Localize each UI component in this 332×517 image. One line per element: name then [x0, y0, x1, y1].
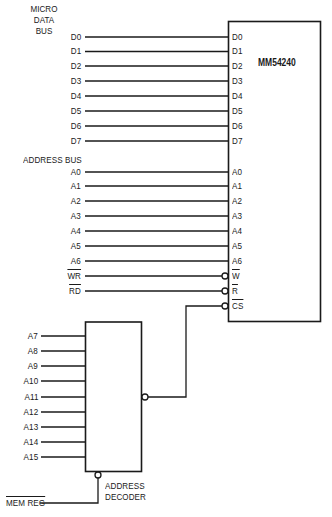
bus-label-a5: A5	[71, 241, 81, 251]
bus-label-d2: D2	[70, 61, 81, 71]
chip-pin-d7: D7	[232, 136, 243, 146]
bus-label-d0: D0	[70, 32, 81, 42]
chip-pin-a2: A2	[232, 196, 242, 206]
decoder-input-a8: A8	[28, 346, 38, 356]
schematic-wiring	[0, 0, 332, 517]
bus-label-d5: D5	[70, 106, 81, 116]
chip-pin-d1: D1	[232, 46, 243, 56]
chip-pin-a4: A4	[232, 226, 242, 236]
bus-label-d6: D6	[70, 121, 81, 131]
chip-name: MM54240	[258, 57, 296, 68]
decoder-label-line1: ADDRESS	[105, 481, 145, 491]
micro-data-bus-heading: MICRO DATA BUS	[27, 3, 61, 36]
heading-line: DATA	[27, 14, 61, 25]
bus-label-wr: WR	[67, 271, 81, 281]
heading-line: BUS	[27, 25, 61, 36]
chip-pin-d5: D5	[232, 106, 243, 116]
decoder-input-a7: A7	[28, 331, 38, 341]
bus-label-d4: D4	[70, 91, 81, 101]
chip-pin-a5: A5	[232, 241, 242, 251]
chip-pin-w: W	[232, 271, 240, 281]
decoder-input-a14: A14	[23, 437, 38, 447]
decoder-input-a10: A10	[23, 376, 38, 386]
address-bus-heading: ADDRESS BUS	[23, 155, 82, 165]
mem-reg-label: MEM REG	[6, 498, 45, 508]
chip-pin-d4: D4	[232, 91, 243, 101]
chip-pin-cs: CS	[232, 301, 243, 311]
chip-pin-a1: A1	[232, 181, 242, 191]
chip-pin-a0: A0	[232, 167, 242, 177]
decoder-input-a15: A15	[23, 452, 38, 462]
chip-pin-d6: D6	[232, 121, 243, 131]
chip-pin-a6: A6	[232, 256, 242, 266]
decoder-input-a13: A13	[23, 422, 38, 432]
bus-label-a2: A2	[71, 196, 81, 206]
chip-pin-r: R	[232, 286, 238, 296]
decoder-input-a11: A11	[24, 392, 38, 402]
bus-label-a4: A4	[71, 226, 81, 236]
bus-label-d1: D1	[70, 46, 81, 56]
bus-label-a1: A1	[71, 181, 81, 191]
chip-pin-d3: D3	[232, 76, 243, 86]
bus-label-rd: RD	[69, 286, 81, 296]
bus-label-a6: A6	[71, 256, 81, 266]
bus-label-a3: A3	[71, 211, 81, 221]
heading-line: MICRO	[27, 3, 61, 14]
decoder-input-a12: A12	[23, 407, 38, 417]
bus-label-d7: D7	[70, 136, 81, 146]
chip-pin-d0: D0	[232, 32, 243, 42]
decoder-label-line2: DECODER	[105, 492, 146, 502]
bus-label-d3: D3	[70, 76, 81, 86]
address-decoder-box	[86, 322, 142, 472]
chip-pin-a3: A3	[232, 211, 242, 221]
decoder-input-a9: A9	[28, 361, 38, 371]
chip-pin-d2: D2	[232, 61, 243, 71]
bus-label-a0: A0	[71, 167, 81, 177]
